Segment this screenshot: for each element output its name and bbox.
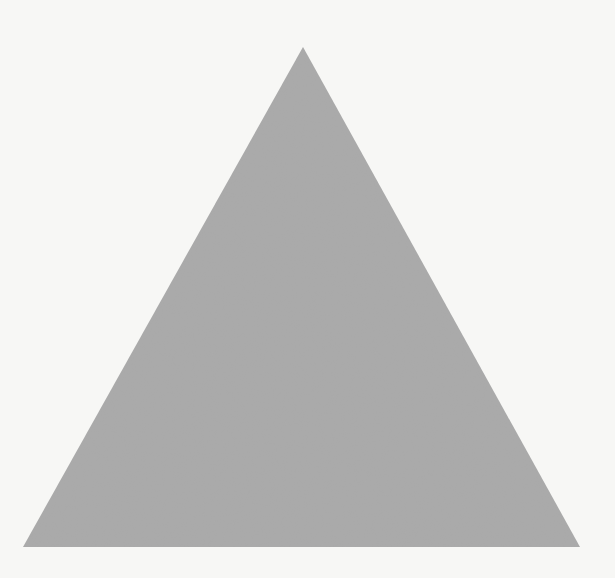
triangle-figure [0, 0, 615, 578]
diagram-canvas [0, 0, 615, 578]
